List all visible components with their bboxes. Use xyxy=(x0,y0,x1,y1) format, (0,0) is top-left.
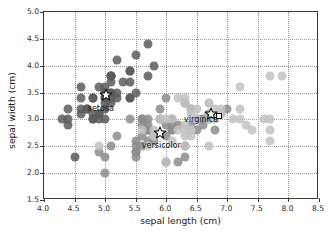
y-tick-label: 2.0 xyxy=(17,168,39,177)
gridline-vertical xyxy=(166,12,167,198)
y-tick-mark xyxy=(40,146,44,147)
y-tick-mark xyxy=(40,119,44,120)
y-tick-label: 3.5 xyxy=(17,87,39,96)
y-tick-label: 2.5 xyxy=(17,141,39,150)
scatter-point-versicolor xyxy=(101,153,110,162)
scatter-point-virginica xyxy=(162,158,171,167)
scatter-point-virginica xyxy=(247,126,256,135)
scatter-point-virginica xyxy=(180,142,189,151)
scatter-point-virginica xyxy=(235,83,244,92)
y-tick-label: 4.0 xyxy=(17,60,39,69)
y-tick-label: 1.5 xyxy=(17,195,39,204)
y-tick-label: 5.0 xyxy=(17,7,39,16)
y-axis-label: sepal width (cm) xyxy=(6,46,17,176)
x-tick-mark xyxy=(75,198,76,202)
scatter-point-virginica xyxy=(180,126,189,135)
scatter-point-setosa xyxy=(113,56,122,65)
cluster-annotation-virginica: virginica xyxy=(184,115,218,124)
x-tick-label: 6.0 xyxy=(159,204,171,213)
scatter-point-virginica xyxy=(205,99,214,108)
gridline-vertical xyxy=(288,12,289,198)
cluster-annotation-setosa: setosa xyxy=(88,103,114,112)
x-axis-label: sepal length (cm) xyxy=(43,215,318,226)
y-tick-mark xyxy=(40,173,44,174)
scatter-point-virginica xyxy=(266,126,275,135)
figure-canvas: setosaversicolorvirginica 4.04.55.05.56.… xyxy=(0,0,335,237)
scatter-point-versicolor xyxy=(211,126,220,135)
x-tick-label: 7.0 xyxy=(220,204,232,213)
scatter-point-setosa xyxy=(143,72,152,81)
scatter-point-versicolor xyxy=(101,169,110,178)
scatter-point-setosa xyxy=(143,40,152,49)
x-tick-mark xyxy=(44,198,45,202)
scatter-point-setosa xyxy=(119,77,128,86)
centroid-star-icon-versicolor xyxy=(154,127,167,140)
x-tick-label: 7.5 xyxy=(251,204,263,213)
scatter-point-versicolor xyxy=(125,115,134,124)
y-tick-label: 4.5 xyxy=(17,33,39,42)
scatter-point-setosa xyxy=(64,115,73,124)
x-tick-label: 8.5 xyxy=(312,204,324,213)
gridline-horizontal xyxy=(44,39,317,40)
scatter-point-virginica xyxy=(266,72,275,81)
scatter-point-virginica xyxy=(266,136,275,145)
scatter-point-setosa xyxy=(76,104,85,113)
scatter-point-virginica xyxy=(156,115,165,124)
scatter-point-virginica xyxy=(266,115,275,124)
scatter-point-versicolor xyxy=(156,104,165,113)
scatter-point-setosa xyxy=(88,93,97,102)
gridline-vertical xyxy=(258,12,259,198)
scatter-point-setosa xyxy=(131,50,140,59)
x-tick-label: 6.5 xyxy=(190,204,202,213)
scatter-point-setosa xyxy=(76,83,85,92)
scatter-point-virginica xyxy=(278,72,287,81)
gridline-vertical xyxy=(136,12,137,198)
x-tick-label: 5.0 xyxy=(98,204,110,213)
gridline-horizontal xyxy=(44,173,317,174)
scatter-point-versicolor xyxy=(113,131,122,140)
centroid-star-icon-setosa xyxy=(99,88,112,101)
plot-axes: setosaversicolorvirginica xyxy=(43,11,318,199)
scatter-point-setosa xyxy=(150,61,159,70)
y-tick-mark xyxy=(40,12,44,13)
x-tick-label: 8.0 xyxy=(281,204,293,213)
scatter-point-virginica xyxy=(235,115,244,124)
scatter-point-virginica xyxy=(235,104,244,113)
y-tick-label: 3.0 xyxy=(17,114,39,123)
x-tick-mark xyxy=(105,198,106,202)
gridline-horizontal xyxy=(44,66,317,67)
scatter-point-virginica xyxy=(137,126,146,135)
scatter-point-versicolor xyxy=(107,142,116,151)
x-tick-mark xyxy=(197,198,198,202)
x-tick-label: 5.5 xyxy=(129,204,141,213)
scatter-point-setosa xyxy=(70,153,79,162)
x-tick-mark xyxy=(227,198,228,202)
scatter-point-virginica xyxy=(174,93,183,102)
y-tick-mark xyxy=(40,66,44,67)
scatter-point-setosa xyxy=(125,67,134,76)
scatter-point-setosa xyxy=(131,88,140,97)
x-tick-mark xyxy=(319,198,320,202)
x-tick-label: 4.5 xyxy=(68,204,80,213)
scatter-point-versicolor xyxy=(162,93,171,102)
y-tick-mark xyxy=(40,200,44,201)
scatter-point-setosa xyxy=(64,104,73,113)
scatter-point-virginica xyxy=(205,142,214,151)
scatter-point-virginica xyxy=(95,142,104,151)
x-tick-label: 4.0 xyxy=(37,204,49,213)
x-tick-mark xyxy=(166,198,167,202)
gridline-vertical xyxy=(75,12,76,198)
cluster-annotation-versicolor: versicolor xyxy=(142,141,181,150)
y-tick-mark xyxy=(40,93,44,94)
scatter-point-setosa xyxy=(88,115,97,124)
x-tick-mark xyxy=(136,198,137,202)
scatter-point-setosa xyxy=(107,72,116,81)
scatter-point-setosa xyxy=(76,93,85,102)
y-tick-mark xyxy=(40,39,44,40)
x-tick-mark xyxy=(288,198,289,202)
x-tick-mark xyxy=(258,198,259,202)
scatter-point-versicolor xyxy=(180,153,189,162)
